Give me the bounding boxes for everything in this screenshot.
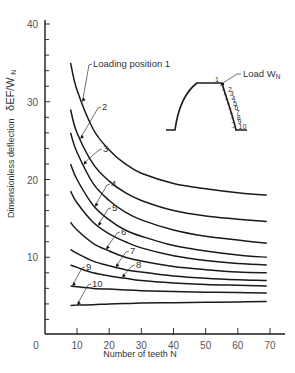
position-tick	[228, 108, 231, 109]
position-label: 10	[239, 123, 247, 130]
curve-series-2	[71, 110, 267, 222]
x-tick-label: 50	[200, 340, 212, 351]
x-tick-label: 60	[232, 340, 244, 351]
curve-label-leaders: Loading position 12345678910	[72, 58, 170, 305]
curve-label-text: 9	[86, 261, 91, 272]
curve-series-loading-position-1	[71, 63, 267, 195]
curve-label-text: 4	[111, 178, 116, 189]
curve-label: 8	[122, 259, 141, 278]
gear-tooth-inset: Load WN12345678910	[166, 68, 281, 130]
curve-label: 2	[80, 101, 107, 139]
position-label: 1	[215, 76, 219, 83]
y-axis-title-subscript: N	[10, 70, 17, 75]
curve-label-text: 2	[102, 101, 107, 112]
x-tick-label: 0	[33, 340, 39, 351]
curve-label-text: 10	[92, 278, 103, 289]
svg-text:Dimensionless deflection: Dimensionless deflection δEF/W N	[4, 70, 17, 218]
leader-arrowhead-icon	[122, 274, 126, 278]
y-tick-label: 30	[27, 97, 39, 108]
load-leader-line	[223, 74, 241, 83]
load-label: Load WN	[243, 68, 281, 80]
curve-label-text: 5	[112, 202, 117, 213]
curve-label-text: 8	[136, 259, 141, 270]
leader-line	[84, 149, 102, 163]
chart-canvas: 10203040010203040506070 Loading position…	[0, 0, 295, 373]
y-tick-label: 20	[27, 175, 39, 186]
y-axis-title: Dimensionless deflection δEF/W N	[4, 70, 17, 218]
x-tick-label: 10	[71, 340, 83, 351]
curve-series-4	[71, 164, 267, 257]
curve-label: 10	[77, 278, 103, 305]
leader-line	[83, 64, 92, 100]
leader-line	[81, 107, 101, 137]
y-axis-title-text: Dimensionless deflection	[6, 118, 16, 218]
y-tick-label: 10	[27, 252, 39, 263]
curve-label-text: Loading position 1	[93, 58, 170, 69]
tooth-left-flank	[166, 83, 222, 130]
data-series	[71, 63, 267, 306]
x-axis-title: Number of teeth N	[103, 349, 177, 359]
leader-arrowhead-icon	[82, 98, 86, 102]
y-axis-title-symbol: δEF/W	[4, 77, 16, 111]
curve-label: Loading position 1	[82, 58, 170, 102]
position-tick	[225, 99, 228, 100]
curve-label: 9	[72, 261, 91, 286]
curve-label: 7	[116, 245, 136, 267]
y-tick-label: 40	[27, 19, 39, 30]
x-tick-label: 70	[264, 340, 276, 351]
position-tick	[227, 104, 230, 105]
curve-label-text: 7	[130, 245, 135, 256]
curve-label-text: 3	[103, 143, 108, 154]
curve-series-10	[71, 302, 267, 306]
curve-series-6	[71, 222, 267, 272]
curve-label-text: 6	[121, 226, 126, 237]
